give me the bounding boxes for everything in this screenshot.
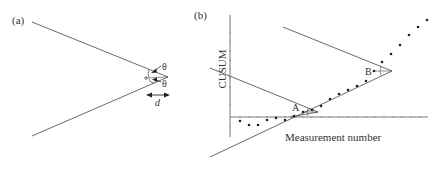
panel-b: (b) CUSUM Measurement numb <box>194 9 428 157</box>
data-point <box>293 115 296 118</box>
panel-b-label: (b) <box>194 9 207 22</box>
data-point <box>408 34 411 37</box>
data-point <box>329 98 332 101</box>
data-point <box>399 44 402 47</box>
cusum-points <box>239 19 429 127</box>
data-point <box>365 80 368 83</box>
data-point <box>311 109 314 112</box>
data-point <box>248 124 251 127</box>
point-a-label: A <box>292 102 300 113</box>
panel-a-label: (a) <box>12 14 25 27</box>
y-axis-label: CUSUM <box>216 49 228 88</box>
v-mask-b-lower-arm <box>210 71 392 157</box>
data-point <box>338 93 341 96</box>
data-point <box>284 119 287 122</box>
data-point <box>275 117 278 120</box>
x-axis-ticks <box>240 116 420 118</box>
arrowhead-left-icon <box>146 93 152 98</box>
arrowhead-icon <box>152 78 157 83</box>
data-point <box>390 53 393 56</box>
data-point <box>381 61 384 64</box>
data-point-b <box>373 70 376 73</box>
figure: (a) θ θ d (b) <box>0 0 440 170</box>
data-point <box>266 119 269 122</box>
theta-upper-label: θ <box>162 61 167 72</box>
arrowhead-right-icon <box>164 93 170 98</box>
data-point <box>347 89 350 92</box>
angle-arc-upper <box>148 70 149 77</box>
v-mask-upper-arm <box>32 22 168 77</box>
data-point <box>426 19 429 22</box>
data-point <box>239 120 242 123</box>
x-axis-label: Measurement number <box>285 131 382 143</box>
distance-label: d <box>155 97 161 108</box>
data-point <box>320 105 323 108</box>
data-point-a <box>302 111 305 114</box>
point-b-label: B <box>365 66 372 77</box>
data-point <box>417 26 420 29</box>
v-mask-lower-arm <box>32 77 168 136</box>
v-mask-a-upper-arm <box>210 68 318 112</box>
data-point <box>257 124 260 127</box>
panel-a: (a) θ θ d <box>12 14 170 136</box>
data-point <box>356 85 359 88</box>
v-mask-b-upper-arm <box>283 27 392 71</box>
theta-lower-label: θ <box>162 78 167 89</box>
